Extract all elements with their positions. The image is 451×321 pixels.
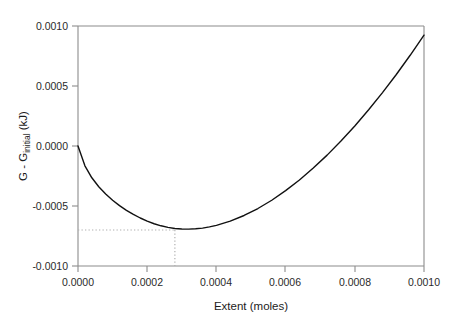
y-tick-labels: 0.0010 0.0005 0.0000 -0.0005 -0.0010 — [32, 20, 68, 272]
y-tick-label: -0.0005 — [32, 200, 68, 212]
plot-axes — [78, 26, 424, 266]
chart-svg: 0.0010 0.0005 0.0000 -0.0005 -0.0010 0.0… — [0, 0, 451, 321]
x-tick-label: 0.0008 — [339, 276, 371, 288]
x-tick-labels: 0.0000 0.0002 0.0004 0.0006 0.0008 0.001… — [62, 276, 440, 288]
y-axis-title: G - Ginitial (kJ) — [17, 111, 32, 181]
y-axis-title-unit: (kJ) — [17, 111, 29, 134]
x-tick-label: 0.0006 — [269, 276, 301, 288]
y-tick-label: 0.0000 — [36, 140, 68, 152]
x-axis-title: Extent (moles) — [214, 300, 288, 312]
gibbs-energy-curve — [78, 35, 424, 229]
y-tick-label: -0.0010 — [32, 260, 68, 272]
minimum-guide-lines — [78, 230, 175, 266]
x-tick-label: 0.0004 — [200, 276, 232, 288]
x-tick-label: 0.0000 — [62, 276, 94, 288]
y-axis-title-subscript: initial — [22, 133, 32, 152]
x-tick-label: 0.0002 — [131, 276, 163, 288]
x-tick-marks — [78, 266, 424, 272]
y-tick-label: 0.0005 — [36, 80, 68, 92]
x-tick-label: 0.0010 — [408, 276, 440, 288]
y-tick-marks — [72, 26, 78, 266]
svg-text:G - Ginitial (kJ): G - Ginitial (kJ) — [17, 111, 32, 181]
y-axis-title-main: G - G — [17, 153, 29, 181]
gibbs-energy-chart: 0.0010 0.0005 0.0000 -0.0005 -0.0010 0.0… — [0, 0, 451, 321]
y-tick-label: 0.0010 — [36, 20, 68, 32]
